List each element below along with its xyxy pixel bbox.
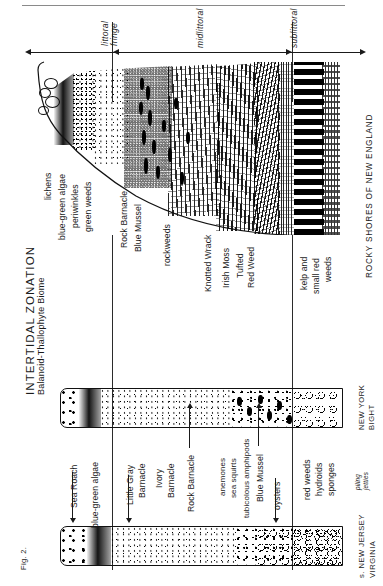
figure-title: INTERTIDAL ZONATION bbox=[24, 246, 36, 395]
leader-oysters bbox=[275, 478, 276, 520]
panel-rocky-shores-new-england bbox=[36, 60, 340, 235]
region-label-nj-line1: s. NEW JERSEY bbox=[358, 514, 366, 578]
intertidal-zonation-figure: littoral fringe midlittoral sublittoral bbox=[0, 0, 383, 586]
species-label-knotted-wrack: Knotted Wrack bbox=[204, 234, 213, 292]
species-label-tubicolous-amphipods: tubicolous amphipods bbox=[243, 439, 251, 518]
panel-new-york-bight bbox=[60, 388, 343, 428]
species-label-rock-barnacle-2: Rock Barnacle bbox=[187, 455, 196, 512]
zone-arrow-sublittoral-head bbox=[360, 49, 366, 55]
zone-arrow-supralittoral-head bbox=[25, 49, 31, 55]
panel-south-new-jersey-virginia bbox=[60, 526, 343, 566]
species-label-rock-barnacle: Rock Barnacle bbox=[120, 191, 129, 248]
njv-barnacle-stipple bbox=[111, 527, 236, 565]
species-label-red-weeds: red weeds bbox=[303, 459, 312, 500]
leader-rock-barnacle-2 bbox=[189, 408, 190, 448]
species-label-blue-green-algae: blue-green algae bbox=[58, 174, 67, 240]
nyb-mussel bbox=[247, 407, 252, 416]
species-label-sea-squirts: sea squirts bbox=[230, 458, 238, 498]
species-label-kelp-and: kelp and bbox=[300, 257, 309, 290]
species-label-lichens: lichens bbox=[44, 173, 53, 200]
region-label-rocky-shores: ROCKY SHORES OF NEW ENGLAND bbox=[366, 114, 375, 278]
region-label-nj-line2: VIRGINIA bbox=[369, 541, 377, 578]
species-label-anemones: anemones bbox=[219, 458, 227, 496]
species-label-small-red: small red bbox=[312, 258, 321, 294]
species-label-barnacle-2: Barnacle bbox=[167, 463, 176, 498]
species-label-barnacle-1: Barnacle bbox=[138, 463, 147, 498]
zone-label-sublittoral: sublittoral bbox=[290, 8, 299, 48]
species-label-weeds: weeds bbox=[324, 257, 333, 282]
nyb-mussel bbox=[267, 411, 272, 420]
species-label-irish-moss: Irish Moss bbox=[222, 248, 231, 288]
nyb-mussel bbox=[237, 397, 242, 406]
species-label-periwinkles: periwinkles bbox=[71, 184, 80, 228]
species-label-green-weeds: green weeds bbox=[84, 182, 93, 232]
figure-subtitle: Balanoid-Thallophyte Biome bbox=[37, 277, 46, 395]
species-label-blue-mussel-2: Blue Mussel bbox=[256, 454, 265, 502]
figure-number: Fig. 2. bbox=[20, 547, 28, 570]
species-label-red-weed: Red Weed bbox=[247, 247, 256, 288]
shoreline-curve bbox=[36, 60, 340, 235]
zone-arrow-supralittoral-line bbox=[30, 52, 112, 53]
zone-arrow-sublittoral-line bbox=[292, 52, 362, 53]
header-rule bbox=[22, 5, 345, 6]
zone-label-littoral-fringe-line2: fringe bbox=[110, 23, 119, 46]
leader-head-oysters bbox=[273, 518, 279, 523]
region-label-new-york-bight-line1: NEW YORK bbox=[358, 385, 366, 430]
nyb-oyster-zone bbox=[293, 389, 343, 427]
nyb-mussel bbox=[277, 401, 282, 410]
nyb-barnacle-stipple bbox=[101, 389, 231, 427]
leader-head-rock-barnacle-2 bbox=[187, 403, 193, 408]
substrate-label-jetties: jetties bbox=[363, 472, 370, 490]
zone-arrow-midlittoral-line bbox=[112, 52, 292, 53]
zone-label-midlittoral: midlittoral bbox=[196, 8, 205, 48]
njv-sponge-zone bbox=[294, 527, 343, 565]
nyb-roach-zone bbox=[61, 389, 79, 427]
species-label-sponges: sponges bbox=[327, 463, 336, 496]
njv-sea-roach-zone bbox=[61, 527, 87, 565]
leader-sea-roach bbox=[72, 472, 73, 520]
species-label-rockweeds: rockweeds bbox=[163, 224, 172, 266]
species-label-blue-mussel: Blue Mussel bbox=[134, 204, 143, 252]
leader-head-little-gray-barnacle bbox=[126, 518, 132, 523]
leader-head-sea-roach bbox=[70, 518, 76, 523]
species-label-blue-green-algae-2: blue-green algae bbox=[91, 462, 100, 528]
nyb-mussel bbox=[287, 415, 292, 424]
leader-head-blue-mussel-2 bbox=[256, 403, 262, 408]
zone-arrow-midlittoral-head-left bbox=[113, 49, 119, 55]
species-label-tufted: Tufted bbox=[236, 253, 245, 278]
species-label-ivory: Ivory bbox=[155, 469, 164, 488]
region-label-new-york-bight-line2: BIGHT bbox=[368, 404, 376, 430]
leader-blue-mussel-2 bbox=[258, 408, 259, 446]
substrate-label-piling: piling bbox=[355, 474, 362, 490]
leader-little-gray-barnacle bbox=[128, 475, 129, 520]
nyb-algae-band bbox=[79, 389, 101, 427]
species-label-hydroids: hydroids bbox=[315, 463, 324, 496]
njv-algae-band bbox=[87, 527, 111, 565]
